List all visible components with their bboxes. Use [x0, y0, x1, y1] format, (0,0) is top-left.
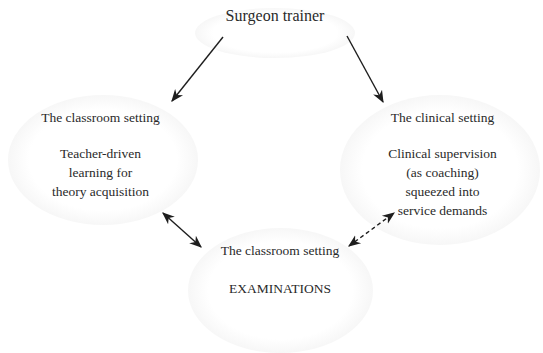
node-line: squeezed into [360, 182, 525, 201]
node-line: service demands [360, 201, 525, 220]
clinical-setting-node: The clinical setting Clinical supervisio… [360, 108, 525, 220]
node-line: theory acquisition [18, 182, 183, 201]
arrow-root-to-classroom [172, 37, 223, 101]
node-line: Clinical supervision [360, 144, 525, 163]
examinations-node: The classroom setting EXAMINATIONS [195, 241, 365, 298]
node-heading: The clinical setting [360, 108, 525, 127]
node-line: (as coaching) [360, 163, 525, 182]
node-line: learning for [18, 163, 183, 182]
node-line: Teacher-driven [18, 144, 183, 163]
diagram-canvas: Surgeon trainer The classroom setting Te… [0, 0, 543, 353]
classroom-setting-node: The classroom setting Teacher-driven lea… [18, 108, 183, 201]
node-heading: The classroom setting [195, 241, 365, 260]
root-label: Surgeon trainer [195, 6, 355, 25]
root-node: Surgeon trainer [195, 6, 355, 25]
arrow-root-to-clinical [347, 36, 383, 102]
node-line: EXAMINATIONS [195, 279, 365, 298]
node-heading: The classroom setting [18, 108, 183, 127]
